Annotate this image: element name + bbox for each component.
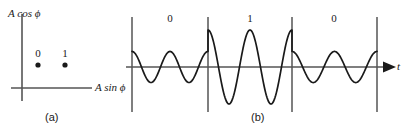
time-axis-label: t [397,61,400,72]
panel-a-caption: (a) [45,112,58,123]
constellation-point-1 [62,62,67,67]
constellation-point-0 [35,62,40,67]
panel-a-axes [11,14,92,101]
x-axis-label: A sin ϕ [95,82,126,93]
bit-label-2: 0 [322,13,346,24]
y-axis-label: A cos ϕ [8,8,40,19]
panel-b-caption: (b) [251,112,264,123]
symbol-boundary-lines [132,17,377,112]
bit-label-0: 0 [158,13,182,24]
time-axis-arrowhead [383,62,396,73]
ask-modulation-figure: A cos ϕ A sin ϕ 0 1 (a) 0 1 0 t (b) [0,0,406,131]
bit-label-1: 1 [238,13,262,24]
constellation-point-label-0: 0 [31,48,45,59]
constellation-point-label-1: 1 [58,48,72,59]
constellation-points [35,62,67,67]
